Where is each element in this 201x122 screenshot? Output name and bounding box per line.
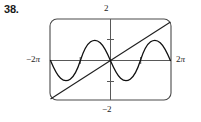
y-min-label: −2 [102,104,112,114]
x-max-label-pi: π [181,54,186,64]
x-min-label: −2π [26,54,40,64]
problem-number: 38. [4,3,19,15]
graphing-calculator-screen [49,18,172,101]
x-min-label-value: −2 [26,54,36,64]
y-max-label: 2 [104,3,109,13]
x-min-label-pi: π [36,54,41,64]
x-max-label: 2π [176,54,185,64]
figure-container: 38. 2 −2 −2π 2π [0,0,201,122]
